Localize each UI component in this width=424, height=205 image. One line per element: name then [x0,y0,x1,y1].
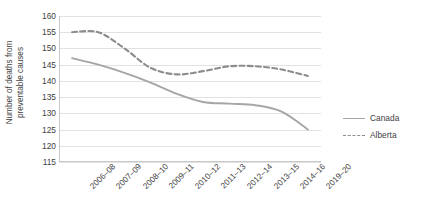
series-lines [59,16,321,162]
legend-line-icon-alberta [343,132,365,140]
x-axis-tick-label: 2007–09 [115,162,144,191]
x-axis-tick-label: 2009–11 [167,162,195,190]
chart-figure: Number of deaths from preventable causes… [0,0,424,205]
y-axis-title-line-2: preventable causes [16,41,27,125]
x-axis-tick-label: 2019–20 [324,162,353,191]
x-axis-tick-label: 2011–13 [219,162,247,190]
legend-item-alberta[interactable]: Alberta [343,127,423,144]
y-axis-tick-label: 160 [30,12,56,20]
x-axis-tick-label: 2014–16 [298,162,327,191]
y-axis-tick-label: 140 [30,77,56,85]
x-axis-tick-label: 2010–12 [193,162,222,191]
legend-label-canada: Canada [370,114,399,123]
y-axis-tick-label: 120 [30,142,56,150]
legend-line-icon-canada [343,115,365,123]
plot-area [59,16,321,162]
y-axis-tick-label: 135 [30,93,56,101]
series-line-alberta [72,31,308,76]
y-axis-tick-label: 130 [30,109,56,117]
x-axis-tick-label: 2008–10 [141,162,170,191]
y-axis-tick-label: 155 [30,28,56,36]
y-axis-title-line-1: Number of deaths from [6,41,17,125]
chart-legend: Canada Alberta [343,110,423,144]
x-axis-tick-label: 2012–14 [246,162,275,191]
x-axis-tick-labels: 2006–082007–092008–102009–112010–122011–… [59,162,321,205]
x-axis-tick-label: 2006–08 [88,162,117,191]
y-axis-tick-label: 150 [30,44,56,52]
legend-label-alberta: Alberta [370,131,397,140]
y-axis-tick-label: 125 [30,125,56,133]
y-axis-tick-labels: 160155150145140135130125120115 [26,0,56,205]
legend-item-canada[interactable]: Canada [343,110,423,127]
y-axis-tick-label: 115 [30,158,56,166]
x-axis-tick-label: 2013–15 [272,162,301,191]
y-axis-tick-label: 145 [30,60,56,68]
